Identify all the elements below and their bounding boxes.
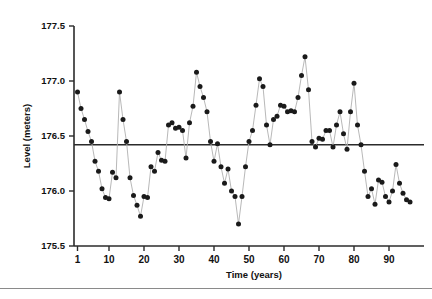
y-tick-label: 176.5 — [41, 130, 65, 141]
data-point-marker — [254, 103, 259, 108]
data-point-marker — [303, 54, 308, 59]
data-point-marker — [257, 76, 262, 81]
data-point-marker — [152, 169, 157, 174]
data-point-marker — [394, 162, 399, 167]
data-point-marker — [355, 123, 360, 128]
data-point-marker — [362, 169, 367, 174]
x-tick-label: 50 — [243, 254, 255, 265]
data-point-marker — [229, 189, 234, 194]
data-point-marker — [180, 128, 185, 133]
data-point-marker — [117, 90, 122, 95]
data-point-marker — [187, 120, 192, 125]
data-point-marker — [110, 170, 115, 175]
data-point-marker — [128, 175, 133, 180]
data-point-marker — [359, 142, 364, 147]
data-point-marker — [89, 139, 94, 144]
y-tick-label: 177.5 — [41, 20, 65, 31]
data-point-marker — [275, 114, 280, 119]
data-point-marker — [397, 181, 402, 186]
data-point-marker — [82, 117, 87, 122]
x-tick-label: 1 — [75, 254, 81, 265]
x-tick-label: 30 — [173, 254, 185, 265]
x-axis-title: Time (years) — [226, 269, 282, 280]
data-point-marker — [86, 129, 91, 134]
x-tick-label: 10 — [103, 254, 115, 265]
data-point-marker — [194, 70, 199, 75]
data-point-marker — [366, 194, 371, 199]
data-point-marker — [145, 195, 150, 200]
y-tick-label: 176.0 — [41, 185, 65, 196]
data-point-marker — [250, 128, 255, 133]
data-point-marker — [299, 73, 304, 78]
data-point-marker — [215, 141, 220, 146]
data-point-marker — [124, 139, 129, 144]
data-point-marker — [282, 104, 287, 109]
axis-lines — [74, 26, 424, 246]
y-tick-label: 175.5 — [41, 240, 65, 251]
data-point-marker — [383, 194, 388, 199]
data-point-marker — [107, 196, 112, 201]
data-point-marker — [331, 145, 336, 150]
data-point-marker — [96, 169, 101, 174]
data-point-marker — [219, 164, 224, 169]
data-point-marker — [268, 142, 273, 147]
data-point-marker — [373, 202, 378, 207]
data-point-marker — [380, 180, 385, 185]
data-point-marker — [345, 147, 350, 152]
data-point-marker — [75, 90, 80, 95]
x-tick-label: 60 — [278, 254, 290, 265]
data-point-marker — [306, 87, 311, 92]
data-point-marker — [387, 200, 392, 205]
data-point-marker — [240, 194, 245, 199]
data-point-marker — [408, 200, 413, 205]
data-point-marker — [79, 106, 84, 111]
data-point-marker — [243, 164, 248, 169]
data-point-marker — [114, 175, 119, 180]
data-point-marker — [100, 186, 105, 191]
y-axis-ticks: 175.5176.0176.5177.0177.5 — [41, 20, 74, 251]
x-tick-label: 40 — [208, 254, 220, 265]
footer-divider — [0, 288, 432, 289]
data-point-marker — [170, 120, 175, 125]
y-tick-label: 177.0 — [41, 75, 65, 86]
data-point-marker — [390, 189, 395, 194]
data-point-marker — [191, 104, 196, 109]
x-axis-ticks: 1102030405060708090 — [75, 246, 395, 265]
data-point-marker — [348, 109, 353, 114]
data-point-marker — [156, 150, 161, 155]
chart-figure: 175.5176.0176.5177.0177.5 11020304050607… — [0, 0, 432, 299]
data-point-marker — [121, 117, 126, 122]
data-point-marker — [320, 137, 325, 142]
data-point-marker — [163, 159, 168, 164]
data-point-marker — [313, 145, 318, 150]
x-tick-label: 70 — [313, 254, 325, 265]
data-point-marker — [138, 214, 143, 219]
y-axis-title: Level (meters) — [21, 104, 32, 168]
data-point-marker — [222, 181, 227, 186]
data-point-marker — [369, 186, 374, 191]
data-point-marker — [149, 164, 154, 169]
data-point-marker — [327, 128, 332, 133]
data-point-marker — [212, 159, 217, 164]
data-point-marker — [135, 203, 140, 208]
data-point-marker — [184, 156, 189, 161]
x-tick-label: 80 — [348, 254, 360, 265]
data-point-marker — [233, 194, 238, 199]
x-tick-label: 90 — [383, 254, 395, 265]
data-point-marker — [198, 84, 203, 89]
data-point-marker — [334, 123, 339, 128]
data-point-marker — [226, 167, 231, 172]
data-point-marker — [338, 109, 343, 114]
data-point-marker — [93, 159, 98, 164]
data-point-marker — [352, 81, 357, 86]
data-point-marker — [292, 109, 297, 114]
series-data-points — [75, 54, 413, 226]
data-point-marker — [296, 95, 301, 100]
data-point-marker — [261, 84, 266, 89]
data-point-marker — [205, 109, 210, 114]
x-tick-label: 20 — [138, 254, 150, 265]
data-point-marker — [247, 139, 252, 144]
data-point-marker — [201, 95, 206, 100]
data-point-marker — [264, 123, 269, 128]
level-vs-time-scatter-chart: 175.5176.0176.5177.0177.5 11020304050607… — [0, 0, 432, 299]
